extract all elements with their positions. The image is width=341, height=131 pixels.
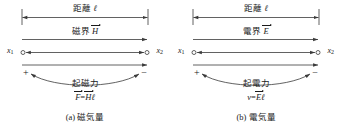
field-line-middle-terminals [192, 51, 320, 55]
terminal-label-x2: x2 [327, 47, 334, 55]
field-vector-symbol: H [92, 27, 98, 36]
field-label: 磁界 H [0, 27, 170, 36]
terminal-circle-x2 [145, 51, 149, 55]
formula-rhs-vector: E [256, 93, 261, 102]
terminal-label-x1: x1 [7, 47, 14, 55]
terminal-circle-x1 [21, 51, 25, 55]
field-line-middle-terminals [21, 51, 149, 55]
formula: v=Eℓ [171, 93, 341, 102]
physics-figure-magnetic-electric-analogy: 距離 ℓ 磁界 H x1 x2 + − 起磁力 F=Hℓ (a) 磁気量 [0, 0, 341, 131]
panel-magnetic-quantity: 距離 ℓ 磁界 H x1 x2 + − 起磁力 F=Hℓ (a) 磁気量 [0, 0, 170, 131]
terminal-circle-x1 [192, 51, 196, 55]
panel-electric-quantity: 距離 ℓ 電界 E x1 x2 + − 起電力 v=Eℓ (b) 電気量 [171, 0, 341, 131]
terminal-label-x2: x2 [156, 47, 163, 55]
polarity-minus: − [312, 68, 318, 78]
field-label: 電界 E [171, 27, 341, 36]
force-label: 起磁力 [0, 79, 170, 88]
terminal-label-x1: x1 [178, 47, 185, 55]
force-label: 起電力 [171, 79, 341, 88]
polarity-plus: + [194, 68, 200, 78]
terminal-circle-x2 [316, 51, 320, 55]
formula-rhs-vector: H [85, 93, 91, 102]
panel-caption: (b) 電気量 [171, 113, 341, 122]
polarity-plus: + [23, 68, 29, 78]
distance-label: 距離 ℓ [171, 4, 341, 13]
formula: F=Hℓ [0, 93, 170, 102]
polarity-minus: − [141, 68, 147, 78]
formula-lhs-vector: F [75, 93, 80, 102]
panel-caption: (a) 磁気量 [0, 113, 170, 122]
distance-label: 距離 ℓ [0, 4, 170, 13]
field-vector-symbol: E [263, 27, 268, 36]
